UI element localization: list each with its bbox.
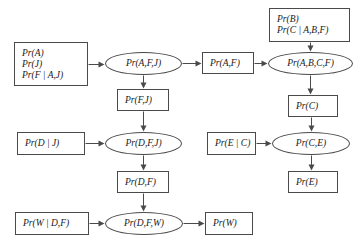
node-dfw: Pr(D,F,W) <box>105 212 183 235</box>
edge-prior_b-to-abcf <box>308 43 314 52</box>
edge-dfw-to-w <box>184 221 205 227</box>
arrowhead-icon <box>308 46 314 52</box>
node-label: Pr(D | J) <box>25 138 59 149</box>
node-label: Pr(W | D,F) <box>23 218 69 229</box>
node-label: Pr(F,J) <box>125 95 152 106</box>
node-label: Pr(D,F,W) <box>124 218 164 229</box>
node-label: Pr(C,E) <box>296 138 326 149</box>
node-afj: Pr(A,F,J) <box>105 52 182 75</box>
node-label: Pr(A,F) <box>210 58 240 69</box>
node-prior_b: Pr(B)Pr(C | A,B,F) <box>269 8 350 42</box>
node-c: Pr(C) <box>288 95 338 117</box>
edge-afj-to-af <box>183 61 202 67</box>
edge-fj-to-dfj <box>141 112 147 132</box>
arrowhead-icon <box>141 165 147 171</box>
edge-afj-to-fj <box>141 76 147 89</box>
node-label: Pr(C) <box>296 101 318 112</box>
node-df: Pr(D,F) <box>117 171 169 193</box>
edge-prior_wdf-to-dfw <box>90 221 105 227</box>
node-prior_afj: Pr(A)Pr(J)Pr(F | A,J) <box>14 42 88 86</box>
node-label: Pr(W) <box>213 218 237 229</box>
node-label: Pr(J) <box>22 59 42 70</box>
arrowhead-icon <box>141 206 147 212</box>
node-e: Pr(E) <box>288 171 338 193</box>
node-label: Pr(F | A,J) <box>22 70 63 81</box>
edge-c-to-ce <box>309 118 315 132</box>
edge-prior_afj-to-afj <box>89 62 105 68</box>
node-prior_wdf: Pr(W | D,F) <box>15 212 89 235</box>
node-label: Pr(E) <box>296 177 318 188</box>
node-dfj: Pr(D,F,J) <box>105 132 182 155</box>
arrowhead-icon <box>99 221 105 227</box>
node-label: Pr(D,F) <box>125 177 156 188</box>
edge-af-to-abcf <box>255 61 268 67</box>
node-label: Pr(D,F,J) <box>125 138 161 149</box>
arrowhead-icon <box>309 165 315 171</box>
arrowhead-icon <box>262 61 268 67</box>
node-af: Pr(A,F) <box>202 52 254 74</box>
arrowhead-icon <box>141 83 147 89</box>
arrowhead-icon <box>141 126 147 132</box>
edge-prior_dj-to-dfj <box>86 141 105 147</box>
node-prior_dj: Pr(D | J) <box>17 132 85 155</box>
edge-df-to-dfw <box>141 194 147 212</box>
node-prior_ec: Pr(E | C) <box>207 132 256 155</box>
node-ce: Pr(C,E) <box>272 132 350 155</box>
edge-dfj-to-df <box>141 156 147 171</box>
node-w: Pr(W) <box>205 212 253 235</box>
arrowhead-icon <box>199 221 205 227</box>
arrowhead-icon <box>99 62 105 68</box>
edge-abcf-to-c <box>308 76 314 95</box>
arrowhead-icon <box>266 141 272 147</box>
node-label: Pr(C | A,B,F) <box>277 25 329 36</box>
arrowhead-icon <box>308 89 314 95</box>
edge-ce-to-e <box>309 156 315 171</box>
arrowhead-icon <box>99 141 105 147</box>
node-abcf: Pr(A,B,C,F) <box>268 52 353 75</box>
arrowhead-icon <box>309 126 315 132</box>
node-label: Pr(A) <box>22 48 44 59</box>
edge-prior_ec-to-ce <box>257 141 272 147</box>
node-fj: Pr(F,J) <box>117 89 169 111</box>
node-label: Pr(A,B,C,F) <box>287 58 334 69</box>
arrowhead-icon <box>196 61 202 67</box>
node-label: Pr(B) <box>277 14 299 25</box>
node-label: Pr(E | C) <box>215 138 250 149</box>
diagram-canvas: Pr(A)Pr(J)Pr(F | A,J)Pr(A,F,J)Pr(F,J)Pr(… <box>0 0 361 244</box>
node-label: Pr(A,F,J) <box>126 58 161 69</box>
